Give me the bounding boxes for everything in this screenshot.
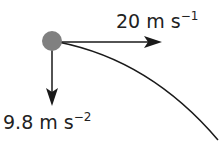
acceleration-value: 9.8	[3, 111, 33, 133]
velocity-value: 20	[116, 10, 140, 32]
velocity-exponent: −1	[181, 9, 199, 23]
velocity-label: 20 m s−1	[116, 10, 198, 31]
acceleration-label: 9.8 m s−2	[3, 111, 91, 132]
velocity-unit: m s	[146, 10, 180, 32]
ball	[42, 31, 62, 51]
acceleration-unit: m s	[39, 111, 73, 133]
acceleration-exponent: −2	[74, 110, 92, 124]
